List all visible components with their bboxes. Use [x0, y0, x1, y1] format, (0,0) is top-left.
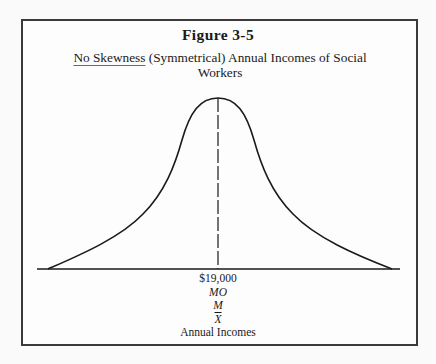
bell-curve — [48, 98, 392, 269]
axis-labels: $19,000 MO M X Annual Incomes — [0, 272, 436, 340]
x-axis-title: Annual Incomes — [0, 326, 436, 340]
median-label: M — [0, 299, 436, 313]
center-value-label: $19,000 — [0, 272, 436, 286]
mode-label: MO — [0, 286, 436, 300]
mean-label: X — [214, 313, 221, 325]
